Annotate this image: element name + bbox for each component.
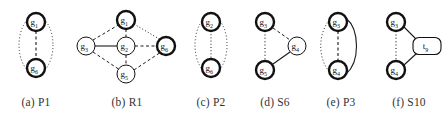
caption-s10: (f) S10	[372, 96, 446, 108]
node-g5: g5	[256, 61, 274, 79]
caption-p2: (c) P2	[182, 96, 240, 108]
subfigure-p1: g1 g6 (a) P1	[0, 0, 72, 118]
node-g6-sub: 6	[35, 69, 38, 75]
caption-s6: (d) S6	[240, 96, 310, 108]
edge-g3-t9-solid	[404, 27, 417, 40]
node-g6: g6	[27, 59, 45, 77]
node-g5: g5	[117, 65, 135, 83]
figure-panel-row: g1 g6 (a) P1 g1 g3	[0, 0, 446, 118]
caption-r1: (b) R1	[72, 96, 182, 108]
graph-canvas-p3: g3 g4	[310, 0, 372, 100]
node-g3: g3	[77, 37, 95, 55]
node-g1-sub: 1	[35, 23, 38, 29]
node-g1: g1	[27, 13, 45, 31]
edge-g1-g6	[134, 24, 161, 40]
graph-canvas-p1: g1 g6	[0, 0, 72, 100]
node-t9-box: t9	[413, 38, 441, 55]
node-g2: g2	[202, 13, 220, 31]
edge-arc-right-solid	[346, 18, 357, 74]
subfigure-p3: g3 g4 (e) P3	[310, 0, 372, 118]
node-g3: g3	[329, 13, 347, 31]
graph-canvas-s10: g3 g4 t9	[372, 0, 446, 100]
subfigure-s10: g3 g4 t9 (f) S10	[372, 0, 446, 118]
node-g2: g2	[117, 37, 135, 55]
graph-canvas-s6: g3 g4 g5	[240, 0, 310, 100]
node-g6: g6	[202, 59, 220, 77]
node-g4: g4	[288, 37, 306, 55]
subfigure-r1: g1 g3 g2 g6 g5 (b) R1	[72, 0, 182, 118]
node-g6: g6	[157, 37, 175, 55]
edge-g5-g6	[134, 52, 161, 70]
node-g3: g3	[256, 13, 274, 31]
edge-g3-g5	[93, 52, 120, 70]
node-g1: g1	[117, 11, 135, 29]
node-g4: g4	[387, 61, 405, 79]
edge-g3-g1	[93, 24, 120, 40]
graph-canvas-p2: g2 g6	[182, 0, 240, 100]
edge-g3-g4-dashed	[273, 28, 290, 40]
subfigure-p2: g2 g6 (c) P2	[182, 0, 240, 118]
edge-g4-t9-solid	[404, 53, 417, 65]
subfigure-s6: g3 g4 g5 (d) S6	[240, 0, 310, 118]
node-g3: g3	[387, 13, 405, 31]
edge-g5-g4-solid	[273, 52, 290, 64]
caption-p1: (a) P1	[0, 96, 72, 108]
graph-canvas-r1: g1 g3 g2 g6 g5	[72, 0, 182, 100]
node-g4: g4	[329, 61, 347, 79]
caption-p3: (e) P3	[310, 96, 372, 108]
